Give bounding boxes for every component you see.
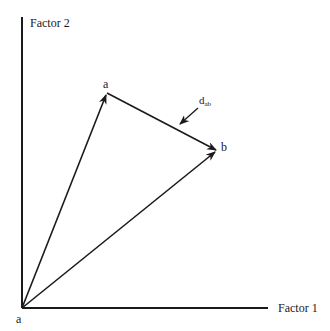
distance-pointer-arrow (180, 108, 198, 124)
distance-label: dab (199, 94, 212, 108)
vector-origin-to-a (22, 95, 106, 308)
x-axis-label: Factor 1 (278, 301, 318, 315)
distance-label-subscript: ab (205, 100, 212, 108)
diagram-canvas: Factor 2 Factor 1 a a b dab (0, 0, 330, 331)
point-a-label: a (103, 77, 109, 91)
y-axis-label: Factor 2 (30, 16, 70, 30)
origin-label: a (16, 312, 22, 326)
point-b-label: b (221, 140, 227, 154)
vector-origin-to-b (22, 152, 215, 308)
